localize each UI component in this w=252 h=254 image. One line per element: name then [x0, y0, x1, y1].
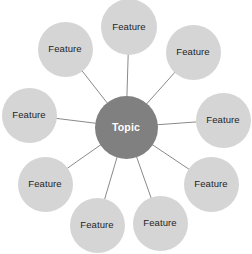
radial-diagram: FeatureFeatureFeatureFeatureFeatureFeatu…: [0, 0, 252, 254]
feature-node-4[interactable]: Feature: [184, 157, 239, 212]
connector-line-6: [105, 156, 118, 199]
feature-node-label: Feature: [194, 179, 227, 189]
feature-node-9[interactable]: Feature: [38, 22, 93, 77]
feature-node-label: Feature: [206, 115, 239, 125]
feature-node-6[interactable]: Feature: [70, 198, 125, 253]
feature-node-label: Feature: [80, 220, 113, 230]
connector-line-8: [55, 118, 95, 123]
connector-line-3: [156, 122, 196, 125]
connector-line-2: [146, 72, 175, 104]
connector-line-7: [67, 145, 101, 169]
connector-line-1: [127, 54, 128, 97]
feature-node-label: Feature: [143, 218, 176, 228]
center-topic-node[interactable]: Topic: [95, 96, 158, 159]
feature-node-2[interactable]: Feature: [166, 25, 221, 80]
feature-node-8[interactable]: Feature: [2, 88, 57, 143]
feature-node-label: Feature: [28, 179, 61, 189]
feature-node-7[interactable]: Feature: [18, 157, 73, 212]
connector-line-5: [136, 156, 151, 198]
feature-node-label: Feature: [12, 110, 45, 120]
connector-line-9: [81, 70, 107, 103]
feature-node-label: Feature: [176, 47, 209, 57]
feature-node-3[interactable]: Feature: [196, 93, 251, 148]
connector-line-4: [151, 144, 189, 169]
feature-node-5[interactable]: Feature: [133, 196, 188, 251]
center-topic-label: Topic: [112, 122, 140, 133]
feature-node-1[interactable]: Feature: [101, 0, 157, 55]
feature-node-label: Feature: [48, 44, 81, 54]
feature-node-label: Feature: [112, 22, 145, 32]
